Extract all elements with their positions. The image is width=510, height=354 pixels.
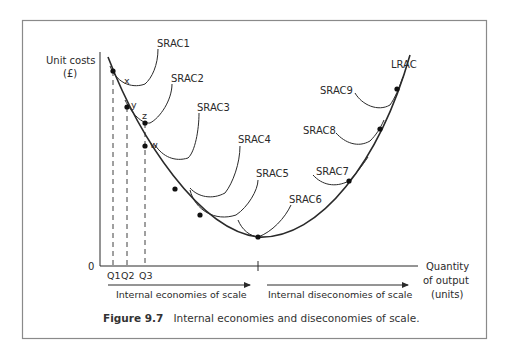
x-axis-label-line1: Quantity	[426, 261, 469, 272]
q2-label: Q2	[121, 270, 135, 281]
tangency-point-y	[124, 104, 129, 109]
origin-label: 0	[88, 261, 94, 272]
x-axis-label-line3: (units)	[431, 289, 463, 300]
figure-frame	[23, 21, 487, 339]
x-axis-label-line2: of output	[423, 275, 469, 286]
tangency-point-1	[110, 68, 115, 73]
srac4-label: SRAC4	[238, 134, 271, 145]
tangency-point-z	[142, 120, 147, 125]
diseconomies-label: Internal diseconomies of scale	[268, 289, 412, 300]
point-label-z: z	[142, 110, 147, 121]
srac1-label: SRAC1	[157, 38, 190, 49]
tangency-point-5	[197, 212, 202, 217]
q3-label: Q3	[139, 270, 153, 281]
point-label-y: y	[131, 99, 137, 110]
lrac-label: LRAC	[391, 59, 417, 70]
point-label-w: w	[150, 139, 158, 150]
srac5-label: SRAC5	[256, 168, 289, 179]
y-axis-label-line2: (£)	[63, 68, 77, 79]
srac2-label: SRAC2	[171, 73, 204, 84]
srac7-label: SRAC7	[316, 166, 349, 177]
economies-of-scale-diagram: x y z w SRAC1 SRAC2 SRAC3 SRAC4 SRAC5 SR…	[0, 0, 510, 354]
q1-label: Q1	[107, 270, 121, 281]
tangency-point-8	[377, 126, 382, 131]
srac8-label: SRAC8	[303, 125, 336, 136]
tangency-point-9	[394, 86, 399, 91]
srac6-label: SRAC6	[289, 194, 322, 205]
tangency-point-7	[346, 178, 351, 183]
tangency-point-4	[172, 186, 177, 191]
economies-label: Internal economies of scale	[116, 289, 247, 300]
point-label-x: x	[124, 75, 130, 86]
tangency-point-w	[142, 143, 147, 148]
srac3-label: SRAC3	[197, 102, 230, 113]
caption-number: Figure 9.7	[103, 312, 163, 324]
srac9-label: SRAC9	[320, 85, 353, 96]
y-axis-label-line1: Unit costs	[46, 55, 96, 66]
tangency-point-6	[255, 234, 260, 239]
caption-text: Internal economies and diseconomies of s…	[173, 312, 419, 324]
